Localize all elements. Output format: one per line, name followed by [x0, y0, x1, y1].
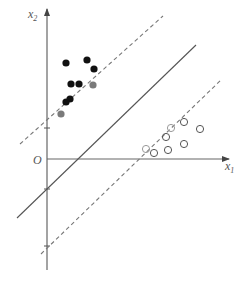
- y-axis-label: x2: [27, 7, 37, 23]
- negative-support-vector: [167, 124, 174, 131]
- x-axis-label: x1: [224, 159, 234, 175]
- positive-point: [75, 80, 82, 87]
- positive-class-points: [57, 56, 97, 117]
- negative-point: [196, 125, 203, 132]
- origin-label: O: [33, 153, 42, 167]
- positive-point: [90, 65, 97, 72]
- positive-point: [83, 56, 90, 63]
- negative-point: [164, 146, 171, 153]
- negative-class-points: [142, 118, 203, 156]
- positive-support-vector: [57, 110, 64, 117]
- negative-point: [180, 140, 187, 147]
- upper-margin-line: [20, 16, 163, 144]
- negative-support-vector: [142, 145, 149, 152]
- negative-point: [150, 149, 157, 156]
- positive-point: [62, 98, 69, 105]
- positive-point: [67, 80, 74, 87]
- negative-point: [180, 118, 187, 125]
- positive-support-vector: [89, 81, 96, 88]
- negative-point: [162, 133, 169, 140]
- positive-point: [62, 59, 69, 66]
- lower-margin-line: [41, 80, 221, 254]
- svm-diagram: x2 O x1: [0, 0, 247, 284]
